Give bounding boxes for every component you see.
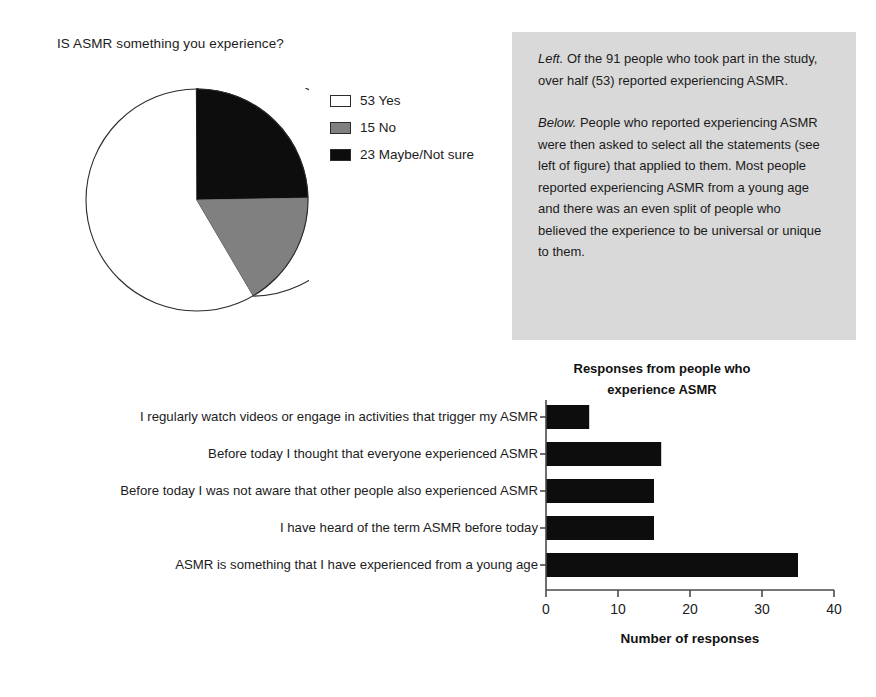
x-tick-label-0: 0	[542, 601, 550, 617]
caption-text-left: Of the 91 people who took part in the st…	[538, 51, 817, 88]
legend-swatch-maybe	[330, 149, 351, 161]
legend-item-no: 15 No	[330, 120, 474, 136]
pie-chart-legend: 53 Yes 15 No 23 Maybe/Not sure	[330, 93, 474, 163]
legend-label-no: 15 No	[360, 121, 396, 135]
legend-item-yes: 53 Yes	[330, 93, 474, 109]
legend-item-maybe: 23 Maybe/Not sure	[330, 147, 474, 163]
caption-lead-below: Below.	[538, 115, 576, 130]
x-tick-label-40: 40	[826, 601, 842, 617]
bar-chart-figure: I regularly watch videos or engage in ac…	[0, 398, 876, 658]
bar-chart-svg: I regularly watch videos or engage in ac…	[0, 398, 876, 658]
legend-label-maybe: 23 Maybe/Not sure	[360, 148, 474, 162]
legend-swatch-no	[330, 122, 351, 134]
bar-2	[546, 479, 654, 503]
bar-chart-title-line1: Responses from people who	[512, 358, 812, 379]
bar-4	[546, 553, 798, 577]
caption-panel: Left. Of the 91 people who took part in …	[512, 32, 856, 340]
bar-chart-title: Responses from people who experience ASM…	[512, 358, 812, 400]
bar-category-label-1: Before today I thought that everyone exp…	[208, 446, 538, 461]
caption-lead-left: Left.	[538, 51, 563, 66]
legend-swatch-yes	[330, 95, 351, 107]
legend-label-yes: 53 Yes	[360, 94, 401, 108]
pie-chart-svg	[85, 88, 309, 312]
caption-paragraph-below: Below. People who reported experiencing …	[538, 112, 826, 263]
bar-category-label-4: ASMR is something that I have experience…	[175, 557, 538, 572]
bar-category-label-0: I regularly watch videos or engage in ac…	[140, 409, 538, 424]
bar-1	[546, 442, 661, 466]
x-tick-label-20: 20	[682, 601, 698, 617]
bar-category-label-3: I have heard of the term ASMR before tod…	[280, 520, 538, 535]
bar-chart-x-axis-title: Number of responses	[621, 631, 760, 646]
pie-chart-title: IS ASMR something you experience?	[57, 36, 284, 51]
caption-text-below: People who reported experiencing ASMR we…	[538, 115, 821, 259]
bar-3	[546, 516, 654, 540]
pie-chart-figure	[85, 88, 309, 312]
caption-paragraph-left: Left. Of the 91 people who took part in …	[538, 48, 826, 91]
bar-category-label-2: Before today I was not aware that other …	[120, 483, 538, 498]
bar-chart-title-line2: experience ASMR	[512, 379, 812, 400]
bar-0	[546, 405, 589, 429]
x-tick-label-10: 10	[610, 601, 626, 617]
x-tick-label-30: 30	[754, 601, 770, 617]
